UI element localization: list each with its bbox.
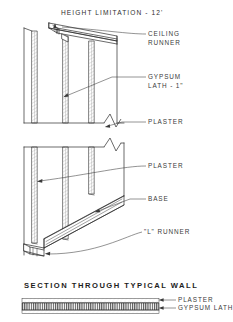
callout-gypsum-lath-line1: GYPSUM [148,72,183,81]
section-plaster-layer [22,299,159,303]
stud-middle-upper [63,36,68,123]
section-title: SECTION THROUGH TYPICAL WALL [24,281,198,290]
callout-plaster-upper: PLASTER [148,118,183,126]
callout-base: BASE [148,195,169,203]
callout-plaster-lower: PLASTER [148,162,183,170]
upper-wall-assembly [24,23,124,123]
l-runner-geometry [24,244,44,256]
drawing-title: HEIGHT LIMITATION - 12' [61,9,163,16]
stud-right-upper [89,41,94,123]
callout-l-runner: "L" RUNNER [144,228,190,236]
section-detail [22,298,176,313]
stud-left-lower [32,147,37,243]
callout-section-gypsum-lath: GYPSUM LATH [178,304,233,311]
ceiling-runner-geometry [49,23,117,44]
technical-drawing-sheet: HEIGHT LIMITATION - 12' CEILING RUNNER G… [0,0,233,322]
callout-gypsum-lath: GYPSUM LATH - 1" [148,72,183,90]
section-back-plaster-layer [22,310,159,313]
callout-section-plaster: PLASTER [178,296,213,303]
callout-ceiling-runner: CEILING RUNNER [148,29,181,47]
stud-left-upper [32,31,37,123]
section-gypsum-lath-layer [22,303,159,310]
callout-ceiling-runner-line1: CEILING [148,29,181,38]
base-band [44,196,124,248]
leader-gypsum-lath [66,77,146,96]
break-line [104,114,121,151]
drawing-canvas [0,0,233,322]
callout-ceiling-runner-line2: RUNNER [148,38,181,47]
lower-wall-assembly [24,143,124,256]
stud-right-lower [89,147,94,194]
callout-gypsum-lath-line2: LATH - 1" [148,81,183,90]
stud-middle-lower [63,147,68,239]
